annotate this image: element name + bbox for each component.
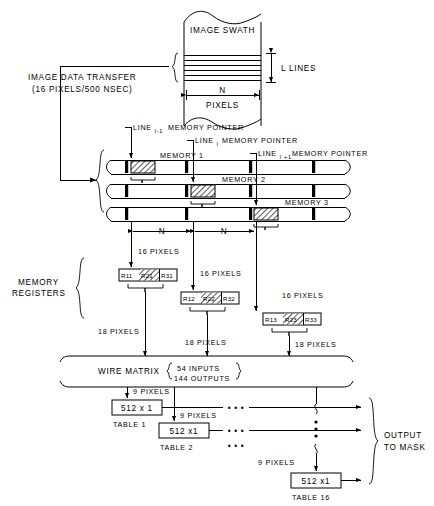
register-3-output-label: 18 PIXELS bbox=[295, 340, 336, 349]
register-3-right-label: R33 bbox=[305, 316, 317, 323]
table-16-box-label: 512 x1 bbox=[302, 477, 331, 486]
pointer-1-text: MEMORY POINTER bbox=[168, 123, 244, 132]
memory-pointer-labels: LINE I-1 MEMORY POINTER LINE I MEMORY PO… bbox=[125, 123, 368, 205]
register-3-output-brace bbox=[272, 328, 307, 336]
wire-matrix-outputs-label: 144 OUTPUTS bbox=[174, 374, 230, 383]
output-brace bbox=[369, 398, 378, 484]
n-span-right-label: N bbox=[221, 227, 228, 236]
table-16-break-symbol bbox=[315, 404, 317, 414]
band-2-active-segment bbox=[191, 185, 215, 197]
band-1-active-segment bbox=[131, 161, 155, 173]
table-16-group: 9 PIXELS 512 x1 TABLE 16 bbox=[258, 387, 361, 502]
wire-matrix-top-edge bbox=[60, 356, 353, 362]
pointer-2-sub: I bbox=[217, 141, 219, 147]
diagram-canvas: IMAGE SWATH L LINES bbox=[0, 0, 434, 506]
register-2-right-label: R32 bbox=[223, 295, 235, 302]
pointer-3-sub: I +1 bbox=[280, 154, 292, 160]
l-lines-dimension: L LINES bbox=[266, 53, 316, 82]
table-2-name: TABLE 2 bbox=[160, 443, 193, 452]
memory-register-2: 16 PIXELS R12 R22 R32 18 PIXELS bbox=[181, 234, 241, 356]
table-1-box-label: 512 x 1 bbox=[121, 404, 153, 413]
memory-register-3: 16 PIXELS R13 R23 R33 18 PIXELS bbox=[256, 234, 336, 356]
output-label-line2: TO MASK bbox=[384, 443, 426, 452]
n-span-dimensions: N N bbox=[131, 221, 256, 236]
register-1-right-label: R31 bbox=[161, 272, 173, 279]
register-1-left-label: R11 bbox=[121, 272, 133, 279]
image-swath-label: IMAGE SWATH bbox=[190, 26, 255, 35]
memory-registers-label-line2: REGISTERS bbox=[12, 289, 66, 298]
band-3-left-break bbox=[107, 207, 112, 221]
memory-2-label: MEMORY 2 bbox=[222, 175, 266, 184]
band-3-right-break bbox=[345, 207, 350, 221]
band-1-segment-brace bbox=[131, 177, 155, 183]
pointer-2-prefix: LINE bbox=[195, 136, 214, 145]
band-2-segment-brace bbox=[191, 201, 215, 207]
n-span-left-label: N bbox=[159, 227, 166, 236]
pointer-3-prefix: LINE bbox=[258, 149, 277, 158]
wire-matrix-brace-left bbox=[167, 363, 172, 379]
band-2-right-break bbox=[345, 184, 350, 198]
memory-registers-brace bbox=[76, 258, 84, 318]
pointer-2-text: MEMORY POINTER bbox=[222, 136, 298, 145]
table-16-name: TABLE 16 bbox=[292, 493, 330, 502]
register-1-output-brace bbox=[128, 284, 163, 292]
swath-width-unit-label: PIXELS bbox=[206, 101, 239, 110]
band-3-active-segment bbox=[254, 208, 278, 220]
wire-matrix-inputs-label: 54 INPUTS bbox=[177, 364, 220, 373]
output-to-mask-group: OUTPUT TO MASK bbox=[369, 398, 426, 484]
band-3-segment-brace bbox=[254, 224, 278, 230]
register-3-middle-label: R23 bbox=[285, 316, 297, 323]
band-2-left-break bbox=[107, 184, 112, 198]
swath-top-wave bbox=[184, 11, 261, 23]
register-1-input-label: 16 PIXELS bbox=[138, 247, 179, 256]
image-swath-group: IMAGE SWATH L LINES bbox=[172, 11, 316, 129]
memory-bands-group: MEMORY 1 MEMORY 2 bbox=[107, 151, 351, 230]
table-2-box-label: 512 x1 bbox=[170, 427, 199, 436]
pointer-3-text: MEMORY POINTER bbox=[292, 149, 368, 158]
register-1-middle-label: R21 bbox=[141, 272, 153, 279]
table-16-break-symbol-2 bbox=[315, 444, 317, 454]
table-1-ellipsis: • • • bbox=[228, 404, 245, 413]
register-2-middle-label: R22 bbox=[203, 295, 215, 302]
pointer-1-prefix: LINE bbox=[133, 123, 152, 132]
pointer-1-sub: I-1 bbox=[155, 128, 164, 134]
output-label-line1: OUTPUT bbox=[384, 431, 422, 440]
wire-matrix-brace-right bbox=[236, 363, 241, 379]
memory-bands-brace bbox=[96, 150, 104, 212]
table-16-pixels-label: 9 PIXELS bbox=[258, 458, 295, 467]
register-2-left-label: R12 bbox=[183, 295, 195, 302]
memory-pointer-3: LINE I +1 MEMORY POINTER bbox=[250, 149, 368, 205]
wire-matrix-label: WIRE MATRIX bbox=[98, 367, 160, 376]
register-2-output-brace bbox=[190, 307, 225, 315]
scan-lines-brace bbox=[172, 53, 178, 82]
register-3-input-label: 16 PIXELS bbox=[282, 291, 323, 300]
table-1-name: TABLE 1 bbox=[113, 420, 146, 429]
memory-registers-label-line1: MEMORY bbox=[18, 278, 59, 287]
tables-middle-ellipsis: • • • bbox=[228, 442, 245, 451]
memory-band-3: MEMORY 3 bbox=[107, 198, 351, 230]
l-lines-label: L LINES bbox=[281, 64, 316, 73]
band-1-right-break bbox=[345, 160, 350, 174]
vertical-ellipsis-dot-3 bbox=[314, 434, 317, 437]
register-1-output-label: 18 PIXELS bbox=[98, 327, 139, 336]
swath-width-dimension: N PIXELS bbox=[186, 86, 259, 110]
swath-width-label: N bbox=[219, 86, 226, 95]
memory-register-1: 16 PIXELS R11 R21 R31 18 PIXELS bbox=[98, 234, 179, 356]
memory-3-label: MEMORY 3 bbox=[285, 198, 329, 207]
table-2-group: 9 PIXELS 512 x1 TABLE 2 • • • • • • bbox=[159, 387, 361, 452]
register-2-output-label: 18 PIXELS bbox=[185, 338, 226, 347]
block-diagram-figure: IMAGE SWATH L LINES bbox=[0, 0, 434, 506]
vertical-ellipsis-dot-1 bbox=[314, 420, 317, 423]
table-1-pixels-label: 9 PIXELS bbox=[133, 387, 170, 396]
transfer-label-line2: (16 PIXELS/500 NSEC) bbox=[32, 85, 132, 94]
table-1-group: 9 PIXELS 512 x 1 TABLE 1 • • • bbox=[112, 387, 361, 429]
memory-1-label: MEMORY 1 bbox=[160, 151, 204, 160]
wire-matrix-group: WIRE MATRIX 54 INPUTS 144 OUTPUTS bbox=[60, 356, 353, 387]
register-3-left-label: R13 bbox=[265, 316, 277, 323]
transfer-label-line1: IMAGE DATA TRANSFER bbox=[28, 73, 136, 82]
band-1-left-break bbox=[107, 160, 112, 174]
vertical-ellipsis-dot-2 bbox=[314, 427, 317, 430]
table-2-pixels-label: 9 PIXELS bbox=[180, 411, 217, 420]
scan-lines-band bbox=[184, 55, 261, 80]
register-2-input-label: 16 PIXELS bbox=[200, 269, 241, 278]
